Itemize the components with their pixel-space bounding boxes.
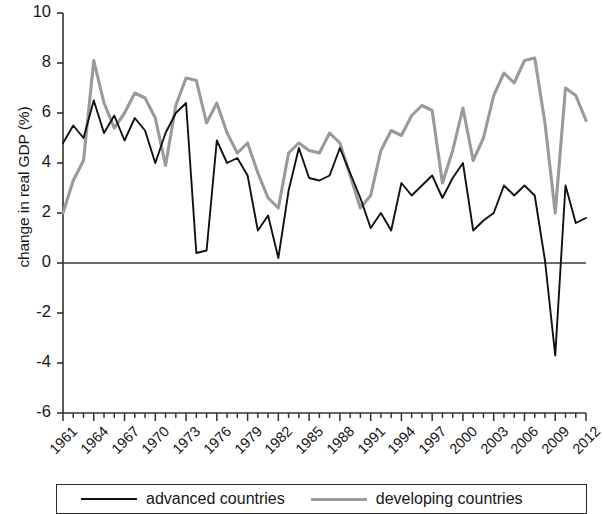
black-line-swatch xyxy=(81,498,137,500)
series-line-advanced xyxy=(63,101,586,356)
gray-line-swatch xyxy=(311,498,367,501)
y-tick-label: 6 xyxy=(11,102,51,121)
y-tick-label: -2 xyxy=(11,302,51,321)
y-tick-label: -6 xyxy=(11,402,51,421)
y-tick-label: 2 xyxy=(11,202,51,221)
y-tick-label: 8 xyxy=(11,52,51,71)
y-tick-label: 4 xyxy=(11,152,51,171)
legend-entry: advanced countries xyxy=(81,490,285,508)
legend-entry: developing countries xyxy=(311,490,523,508)
y-tick-label: -4 xyxy=(11,352,51,371)
legend: advanced countriesdeveloping countries xyxy=(56,484,587,514)
y-tick-label: 10 xyxy=(11,2,51,21)
y-tick-label: 0 xyxy=(11,252,51,271)
legend-label: developing countries xyxy=(376,490,523,508)
legend-label: advanced countries xyxy=(146,490,285,508)
data-series xyxy=(63,58,586,356)
